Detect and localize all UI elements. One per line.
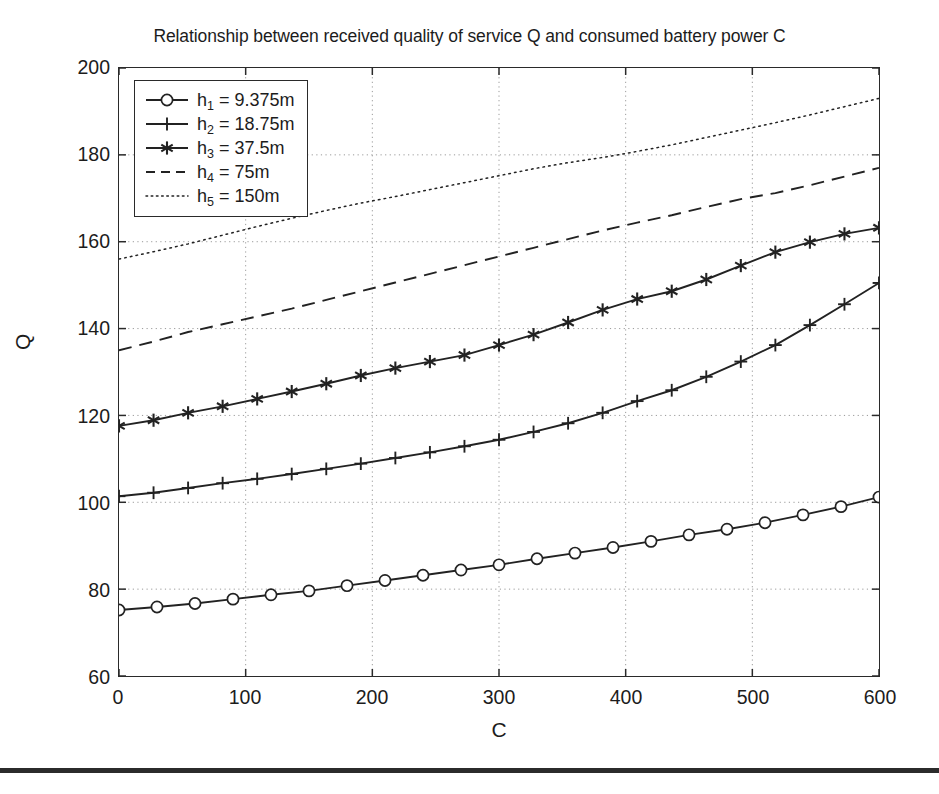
data-point-marker [701,273,712,286]
legend-item-2[interactable]: h2 = 18.75m [144,112,295,136]
legend-item-label: h5 = 150m [197,187,280,205]
legend-item-1[interactable]: h1 = 9.375m [144,88,295,112]
data-point-marker [835,501,846,512]
figure-container: Relationship between received quality of… [0,0,939,794]
data-point-marker [119,490,125,503]
legend-item-4[interactable]: h4 = 75m [144,160,295,184]
y-tick-label: 140 [50,317,110,340]
x-tick-label: 500 [713,686,793,709]
data-point-marker [265,589,276,600]
y-tick-label: 80 [50,578,110,601]
data-point-marker [735,259,746,272]
data-point-marker [119,604,125,615]
data-point-marker [527,426,540,439]
data-point-marker [216,477,229,490]
y-tick-label: 160 [50,230,110,253]
y-tick-label: 200 [50,56,110,79]
data-point-marker [531,553,542,564]
chart-legend: h1 = 9.375mh2 = 18.75mh3 = 37.5mh4 = 75m… [134,80,308,217]
data-point-marker [769,339,782,352]
y-axis-tick-labels: 6080100120140160180200 [42,67,110,677]
data-point-marker [759,517,770,528]
data-point-marker [424,446,437,459]
data-point-marker [569,548,580,559]
x-axis-title: C [118,718,880,742]
series-3 [119,221,879,432]
legend-none-dotted-icon [144,186,190,206]
data-point-marker [320,462,333,475]
data-point-marker [873,491,879,502]
data-point-marker [734,355,747,368]
data-point-marker [838,298,851,311]
x-axis-tick-labels: 0100200300400500600 [118,686,880,714]
x-tick-label: 600 [840,686,920,709]
data-point-marker [597,303,608,316]
data-point-marker [797,509,808,520]
data-point-marker [528,328,539,341]
data-point-marker [161,94,172,105]
data-point-marker [417,570,428,581]
legend-item-label: h3 = 37.5m [197,139,285,157]
legend-item-label: h1 = 9.375m [197,91,295,109]
y-tick-label: 120 [50,404,110,427]
data-point-marker [665,384,678,397]
data-point-marker [721,524,732,535]
data-point-marker [303,585,314,596]
x-tick-label: 0 [78,686,158,709]
data-point-marker [458,440,471,453]
data-point-marker [227,594,238,605]
data-point-marker [455,564,466,575]
series-1 [119,491,879,615]
legend-circle-solid-icon [144,90,190,110]
data-point-marker [804,319,817,332]
legend-item-5[interactable]: h5 = 150m [144,184,295,208]
data-point-marker [389,452,402,465]
data-point-marker [683,529,694,540]
legend-item-label: h2 = 18.75m [197,115,295,133]
data-point-marker [493,559,504,570]
data-point-marker [251,472,264,485]
y-tick-label: 180 [50,143,110,166]
data-point-marker [182,482,195,495]
x-tick-label: 300 [459,686,539,709]
legend-plus-solid-icon [144,114,190,134]
legend-item-3[interactable]: h3 = 37.5m [144,136,295,160]
data-point-marker [341,580,352,591]
y-tick-label: 100 [50,491,110,514]
data-point-marker [770,246,781,259]
legend-item-label: h4 = 75m [197,163,270,181]
data-point-marker [379,575,390,586]
data-point-marker [147,486,160,499]
data-point-marker [700,370,713,383]
x-tick-label: 400 [586,686,666,709]
footer-divider [0,768,939,773]
data-point-marker [161,118,174,131]
data-point-marker [645,536,656,547]
data-point-marker [189,598,200,609]
data-point-marker [562,316,573,329]
data-point-marker [151,601,162,612]
x-tick-label: 100 [205,686,285,709]
y-axis-title: Q [11,334,35,350]
legend-none-dashed-icon [144,162,190,182]
data-point-marker [354,457,367,470]
data-point-marker [562,417,575,430]
legend-star-solid-icon [144,138,190,158]
data-point-marker [493,338,504,351]
data-point-marker [607,542,618,553]
data-point-marker [596,406,609,419]
data-point-marker [873,277,879,290]
data-point-marker [631,395,644,408]
data-point-marker [285,468,298,481]
page-title: Relationship between received quality of… [0,26,939,47]
x-tick-label: 200 [332,686,412,709]
data-point-marker [493,433,506,446]
